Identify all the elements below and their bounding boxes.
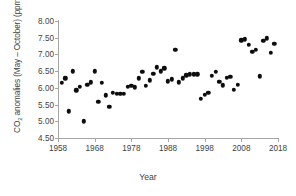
- data-point: [59, 81, 63, 85]
- y-axis-tick-mark: [55, 105, 58, 106]
- x-axis-tick-label: 1988: [148, 144, 188, 153]
- x-axis-tick-label: 1978: [111, 144, 151, 153]
- data-point: [67, 109, 71, 113]
- data-point: [133, 85, 137, 89]
- data-point: [81, 119, 85, 123]
- x-axis-tick-mark: [131, 139, 132, 142]
- data-point: [213, 70, 217, 74]
- data-point: [268, 51, 272, 55]
- data-point: [78, 85, 82, 89]
- y-axis-tick-label: 5.00: [28, 117, 54, 126]
- y-axis-title-prefix: CO: [13, 121, 22, 133]
- x-axis-tick-mark: [58, 139, 59, 142]
- data-point: [162, 66, 166, 70]
- x-axis-tick-mark: [278, 139, 279, 142]
- x-axis-tick-label: 2008: [221, 144, 261, 153]
- x-axis-tick-mark: [168, 139, 169, 142]
- data-point: [70, 69, 74, 73]
- data-point: [228, 75, 232, 79]
- y-axis-tick-label: 8.00: [28, 17, 54, 26]
- y-axis-title-subscript: 2: [17, 118, 23, 121]
- data-point: [96, 100, 100, 104]
- y-axis-tick-mark: [55, 88, 58, 89]
- data-point: [210, 74, 214, 78]
- data-point: [107, 105, 111, 109]
- y-axis-tick-label: 7.00: [28, 50, 54, 59]
- data-point: [147, 78, 151, 82]
- data-point: [144, 84, 148, 88]
- y-axis-tick-label: 6.00: [28, 83, 54, 92]
- y-axis-title-suffix: anomalies (May – October) (ppm): [13, 0, 22, 118]
- y-axis-tick-mark: [55, 71, 58, 72]
- y-axis-tick-mark: [55, 121, 58, 122]
- data-point: [235, 82, 239, 86]
- y-axis-tick-mark: [55, 38, 58, 39]
- data-point: [100, 80, 104, 84]
- x-axis-tick-label: 2018: [258, 144, 296, 153]
- y-axis-title: CO2 anomalies (May – October) (ppm): [13, 0, 22, 140]
- data-point: [180, 76, 184, 80]
- data-point: [206, 90, 210, 94]
- y-axis-tick-mark: [55, 138, 58, 139]
- data-point: [151, 72, 155, 76]
- data-point: [195, 72, 199, 76]
- data-point: [265, 36, 269, 40]
- x-axis-tick-mark: [95, 139, 96, 142]
- data-point: [232, 87, 236, 91]
- data-point: [254, 48, 258, 52]
- data-point: [173, 48, 177, 52]
- data-point: [92, 69, 96, 73]
- y-axis-tick-labels: 4.505.005.506.006.507.007.508.00: [26, 0, 54, 196]
- x-axis-tick-label: 1968: [75, 144, 115, 153]
- x-axis-tick-label: 1958: [38, 144, 78, 153]
- data-point: [63, 76, 67, 80]
- x-axis-tick-label: 1998: [185, 144, 225, 153]
- y-axis-tick-label: 4.50: [28, 134, 54, 143]
- data-point: [74, 88, 78, 92]
- data-point: [177, 80, 181, 84]
- y-axis-tick-label: 6.50: [28, 67, 54, 76]
- data-point: [257, 74, 261, 78]
- x-axis-title: Year: [0, 172, 296, 182]
- data-point: [103, 93, 107, 97]
- data-point: [136, 76, 140, 80]
- data-point: [246, 43, 250, 47]
- data-point: [140, 70, 144, 74]
- x-axis-tick-mark: [241, 139, 242, 142]
- data-point: [89, 80, 93, 84]
- data-point: [243, 37, 247, 41]
- co2-anomalies-scatter-chart: CO2 anomalies (May – October) (ppm) 4.50…: [0, 0, 296, 196]
- data-point: [221, 83, 225, 87]
- y-axis-tick-label: 7.50: [28, 33, 54, 42]
- data-point: [272, 42, 276, 46]
- y-axis-tick-mark: [55, 21, 58, 22]
- plot-area: [58, 21, 278, 138]
- y-axis-tick-label: 5.50: [28, 100, 54, 109]
- data-point: [169, 77, 173, 81]
- data-point: [122, 92, 126, 96]
- x-axis-tick-labels: 1958196819781988199820082018: [58, 139, 279, 153]
- x-axis-tick-mark: [205, 139, 206, 142]
- data-point: [199, 97, 203, 101]
- y-axis-tick-mark: [55, 54, 58, 55]
